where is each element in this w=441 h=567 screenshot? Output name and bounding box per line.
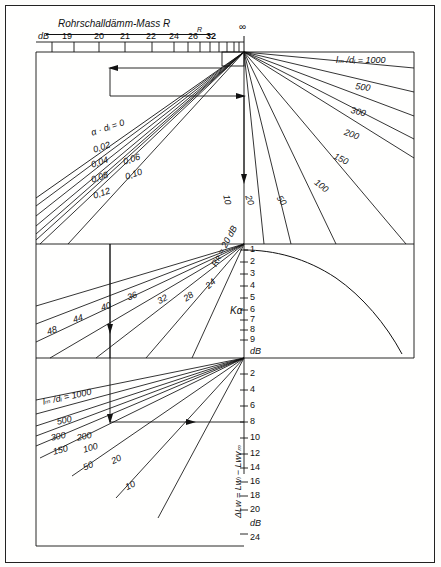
delta-tick-24: 24 — [250, 533, 260, 542]
top-tick-infinity: ∞ — [239, 22, 246, 32]
lm-top-label: lₘ /dᵢ = 1000 — [336, 56, 385, 65]
top-tick-26: 26 — [188, 32, 198, 41]
k-tick-2: 2 — [250, 257, 255, 266]
figure-root: Rohrschalldämm-Mass R R dB 19 20 21 22 2… — [0, 0, 441, 567]
delta-tick-12: 12 — [250, 449, 260, 458]
delta-tick-4: 4 — [250, 385, 255, 394]
figure-frame: Rohrschalldämm-Mass R R dB 19 20 21 22 2… — [5, 5, 435, 563]
k-tick-9: 9 — [250, 335, 255, 344]
top-tick-20: 20 — [94, 32, 104, 41]
delta-tick-10: 10 — [250, 433, 260, 442]
delta-axis-label: ΔLᴡ = Lᴡₗ − Lᴡᴠₘ — [234, 445, 243, 518]
top-axis-unit: dB — [38, 32, 49, 41]
chart-title: Rohrschalldämm-Mass R — [58, 19, 170, 29]
k-tick-7: 7 — [250, 315, 255, 324]
top-tick-19: 19 — [62, 32, 72, 41]
lm-top-10: 10 — [221, 194, 232, 206]
k-tick-8: 8 — [250, 325, 255, 334]
k-tick-4: 4 — [250, 281, 255, 290]
delta-tick-20: 20 — [250, 505, 260, 514]
top-tick-24: 24 — [169, 32, 179, 41]
k-tick-5: 5 — [250, 293, 255, 302]
top-tick-32: 32 — [206, 32, 216, 41]
delta-tick-6: 6 — [250, 401, 255, 410]
top-tick-21: 21 — [120, 32, 130, 41]
delta-axis-unit: dB — [250, 519, 261, 528]
top-tick-22: 22 — [146, 32, 156, 41]
delta-tick-8: 8 — [250, 417, 255, 426]
k-axis-unit: dB — [250, 347, 261, 356]
delta-tick-2: 2 — [250, 369, 255, 378]
k-tick-1: 1 — [250, 245, 255, 254]
k-tick-3: 3 — [250, 269, 255, 278]
delta-tick-16: 16 — [250, 477, 260, 486]
k-tick-6: 6 — [250, 305, 255, 314]
delta-tick-14: 14 — [250, 463, 260, 472]
lm-top-500: 500 — [355, 82, 371, 93]
k-alpha-label: Kα — [230, 306, 242, 316]
delta-tick-18: 18 — [250, 491, 260, 500]
